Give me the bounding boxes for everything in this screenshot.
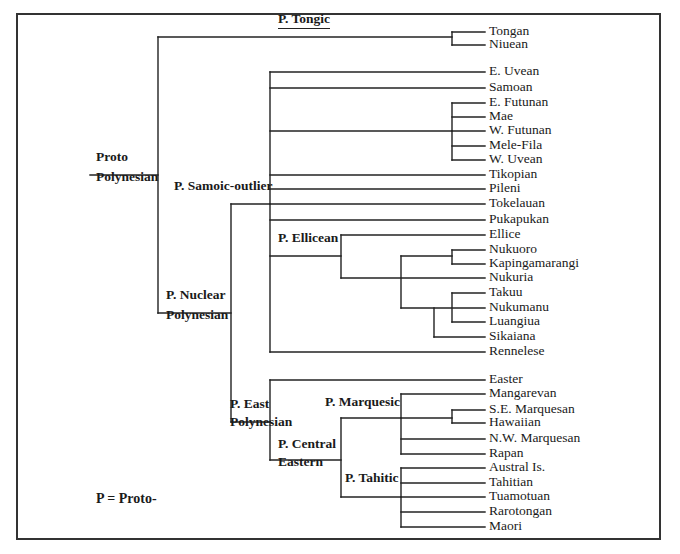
polynesian-family-tree-figure: TonganNiueanE. UveanSamoanE. FutunanMaeW… (0, 0, 680, 554)
node-label-proto: Polynesian (96, 170, 158, 184)
leaf-language-label: Tikopian (489, 167, 537, 181)
node-label-east: P. East (230, 397, 269, 411)
leaf-language-label: Rarotongan (489, 504, 552, 518)
node-label-proto: Proto (96, 150, 128, 164)
leaf-language-label: Nukumanu (489, 300, 549, 314)
leaf-language-label: Tahitian (489, 475, 533, 489)
leaf-language-label: Nukuria (489, 270, 533, 284)
leaf-language-label: Mele-Fila (489, 138, 542, 152)
leaf-language-label: Maori (489, 519, 522, 533)
leaf-language-label: Kapingamarangi (489, 256, 579, 270)
leaf-language-label: Austral Is. (489, 460, 545, 474)
leaf-language-label: Pileni (489, 181, 521, 195)
leaf-language-label: Tuamotuan (489, 489, 550, 503)
leaf-language-label: Easter (489, 372, 523, 386)
leaf-language-label: Pukapukan (489, 212, 549, 226)
leaf-language-label: E. Futunan (489, 95, 548, 109)
node-label-ellicean: P. Ellicean (278, 231, 338, 245)
node-label-tongic: P. Tongic (278, 12, 330, 29)
leaf-language-label: Nukuoro (489, 242, 537, 256)
leaf-language-label: E. Uvean (489, 64, 539, 78)
leaf-language-label: Ellice (489, 227, 520, 241)
leaf-language-label: Luangiua (489, 314, 540, 328)
node-label-central: P. Central (278, 437, 336, 451)
leaf-language-label: W. Uvean (489, 152, 543, 166)
leaf-language-label: Niuean (489, 37, 528, 51)
leaf-language-label: Tokelauan (489, 196, 545, 210)
node-label-east: Polynesian (230, 415, 292, 429)
node-label-nuclear: Polynesian (166, 308, 228, 322)
node-label-samoic: P. Samoic-outlier (174, 179, 273, 193)
node-label-tahitic: P. Tahitic (345, 471, 399, 485)
leaf-language-label: Hawaiian (489, 415, 541, 429)
leaf-language-label: W. Futunan (489, 123, 552, 137)
node-label-central: Eastern (278, 455, 323, 469)
legend-proto-abbreviation: P = Proto- (96, 492, 157, 506)
node-label-nuclear: P. Nuclear (166, 288, 226, 302)
leaf-language-label: Mae (489, 109, 513, 123)
leaf-language-label: Takuu (489, 285, 523, 299)
leaf-language-label: N.W. Marquesan (489, 431, 580, 445)
tree-branches (0, 0, 680, 554)
leaf-language-label: Rapan (489, 446, 524, 460)
leaf-language-label: Mangarevan (489, 386, 556, 400)
leaf-language-label: Rennelese (489, 344, 544, 358)
leaf-language-label: Sikaiana (489, 329, 536, 343)
node-label-marquesic: P. Marquesic (325, 395, 400, 409)
leaf-language-label: Samoan (489, 80, 533, 94)
